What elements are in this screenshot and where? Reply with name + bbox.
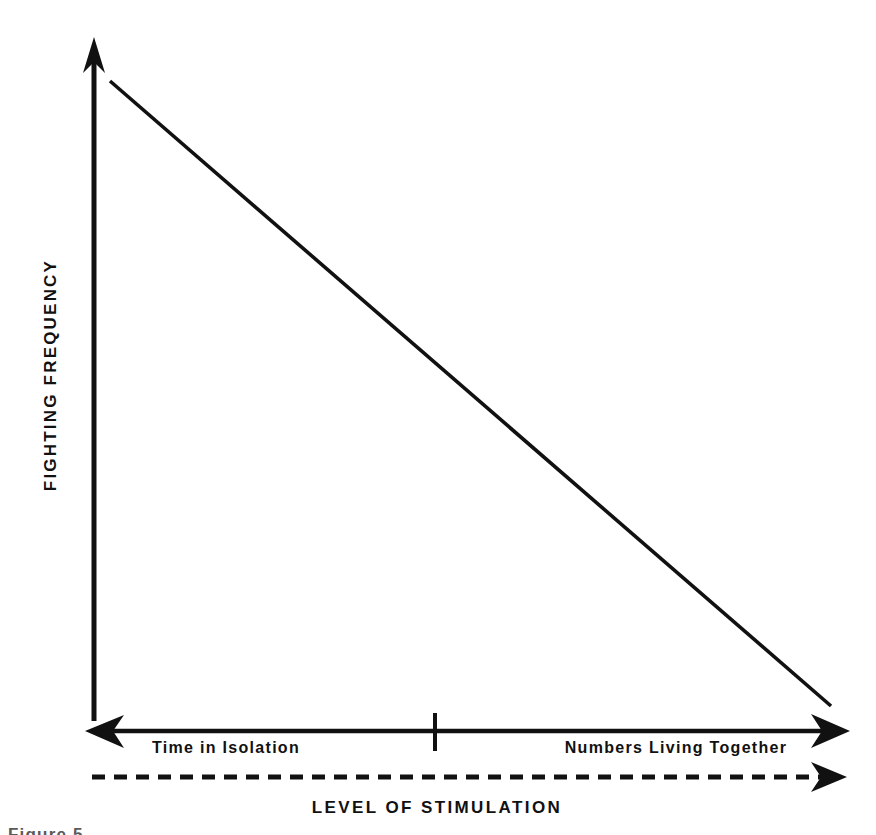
figure-caption-remnant: Figure 5. [8,826,90,835]
y-axis-title: FIGHTING FREQUENCY [42,225,59,525]
x-axis-caption: LEVEL OF STIMULATION [312,799,562,816]
stimulation-arrowhead-icon [811,762,847,792]
stimulation-dashed-arrow-group [92,762,847,792]
figure-container: FIGHTING FREQUENCY Time in Isolation Num… [0,0,876,835]
chart-linework [0,0,876,835]
series-fighting-frequency [110,81,831,706]
trend-line [110,81,831,706]
y-axis-group [83,37,105,721]
x-axis-left-label: Time in Isolation [152,740,300,756]
x-axis-right-label: Numbers Living Together [565,740,788,756]
